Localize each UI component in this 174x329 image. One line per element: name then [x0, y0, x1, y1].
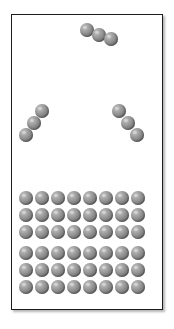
atom-sphere — [83, 246, 97, 260]
atom-sphere — [67, 225, 81, 239]
atom-sphere — [131, 225, 145, 239]
atom-sphere — [51, 191, 65, 205]
gas-phase-region — [12, 15, 162, 309]
atom-sphere — [67, 246, 81, 260]
condensed-phase-region — [12, 15, 162, 309]
atom-sphere — [99, 263, 113, 277]
atom-sphere — [80, 23, 94, 37]
atom-sphere — [83, 191, 97, 205]
atom-sphere — [35, 191, 49, 205]
atom-sphere — [130, 128, 144, 142]
atom-sphere — [115, 246, 129, 260]
atom-sphere — [131, 191, 145, 205]
atom-sphere — [51, 280, 65, 294]
atom-sphere — [115, 280, 129, 294]
container-box — [11, 14, 163, 310]
atom-sphere — [83, 208, 97, 222]
atom-sphere — [35, 246, 49, 260]
atom-sphere — [92, 28, 106, 42]
atom-sphere — [19, 280, 33, 294]
atom-sphere — [83, 280, 97, 294]
atom-sphere — [51, 225, 65, 239]
atom-sphere — [115, 263, 129, 277]
atom-sphere — [115, 225, 129, 239]
atom-sphere — [19, 191, 33, 205]
atom-sphere — [27, 116, 41, 130]
atom-sphere — [19, 263, 33, 277]
atom-sphere — [99, 208, 113, 222]
atom-sphere — [51, 246, 65, 260]
atom-sphere — [35, 263, 49, 277]
atom-sphere — [115, 208, 129, 222]
atom-sphere — [51, 263, 65, 277]
atom-sphere — [121, 116, 135, 130]
atom-sphere — [35, 104, 49, 118]
atom-sphere — [19, 128, 33, 142]
atom-sphere — [99, 246, 113, 260]
atom-sphere — [83, 263, 97, 277]
atom-sphere — [99, 191, 113, 205]
atom-sphere — [19, 246, 33, 260]
atom-sphere — [19, 208, 33, 222]
atom-sphere — [99, 225, 113, 239]
atom-sphere — [104, 32, 118, 46]
atom-sphere — [131, 263, 145, 277]
atom-sphere — [131, 246, 145, 260]
atom-sphere — [51, 208, 65, 222]
atom-sphere — [131, 208, 145, 222]
atom-sphere — [112, 104, 126, 118]
atom-sphere — [83, 225, 97, 239]
atom-sphere — [67, 191, 81, 205]
atom-sphere — [67, 263, 81, 277]
atom-sphere — [131, 280, 145, 294]
atom-sphere — [35, 280, 49, 294]
atom-sphere — [35, 208, 49, 222]
atom-sphere — [99, 280, 113, 294]
figure-stage — [0, 0, 174, 329]
atom-sphere — [67, 280, 81, 294]
atom-sphere — [19, 225, 33, 239]
atom-sphere — [35, 225, 49, 239]
atom-sphere — [115, 191, 129, 205]
atom-sphere — [67, 208, 81, 222]
